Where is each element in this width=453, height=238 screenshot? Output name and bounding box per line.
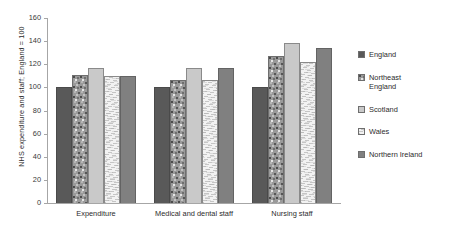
x-axis-line bbox=[47, 203, 341, 204]
bar bbox=[284, 43, 300, 203]
y-axis-tick-label: 40 bbox=[33, 152, 41, 161]
legend-label: Northern Ireland bbox=[369, 150, 422, 160]
bar bbox=[88, 68, 104, 203]
y-axis-tick-label: 20 bbox=[33, 175, 41, 184]
bar bbox=[186, 68, 202, 203]
y-axis-tick-label: 120 bbox=[29, 59, 41, 68]
x-axis-category-label: Medical and dental staff bbox=[155, 209, 233, 218]
x-axis-category-label: Expenditure bbox=[76, 209, 115, 218]
y-axis-tick-label: 0 bbox=[37, 198, 41, 207]
y-axis-tick-label: 140 bbox=[29, 36, 41, 45]
legend-item[interactable]: Northern Ireland bbox=[358, 150, 453, 160]
bar-group-bars bbox=[243, 18, 341, 203]
bar bbox=[202, 80, 218, 203]
bar bbox=[300, 62, 316, 203]
legend-label: Scotland bbox=[369, 105, 398, 115]
legend-label: Northeast England bbox=[369, 73, 401, 92]
y-axis-tick-label: 100 bbox=[29, 82, 41, 91]
legend-item[interactable]: Scotland bbox=[358, 105, 453, 115]
y-axis-title: NHS expenditure and staff; England = 100 bbox=[17, 7, 26, 187]
bar-group-bars bbox=[47, 18, 145, 203]
y-axis-tick-label: 60 bbox=[33, 129, 41, 138]
legend-swatch bbox=[358, 51, 365, 58]
bar bbox=[56, 87, 72, 203]
legend-swatch bbox=[358, 128, 365, 135]
legend-swatch bbox=[358, 74, 365, 81]
bar-group: Nursing staff bbox=[243, 18, 341, 203]
bar bbox=[218, 68, 234, 203]
legend-swatch bbox=[358, 106, 365, 113]
bar-chart-figure: NHS expenditure and staff; England = 100… bbox=[0, 0, 453, 238]
bar bbox=[104, 76, 120, 203]
bar bbox=[170, 80, 186, 203]
legend-item[interactable]: Northeast England bbox=[358, 73, 453, 92]
bar-group: Expenditure bbox=[47, 18, 145, 203]
y-axis-tick-label: 160 bbox=[29, 13, 41, 22]
bar-group: Medical and dental staff bbox=[145, 18, 243, 203]
chart-legend: EnglandNortheast EnglandScotlandWalesNor… bbox=[358, 50, 453, 172]
legend-label: Wales bbox=[369, 127, 389, 137]
bar bbox=[120, 76, 136, 203]
bar bbox=[268, 56, 284, 203]
y-axis-tick-mark bbox=[44, 203, 47, 204]
bar bbox=[72, 75, 88, 203]
legend-label: England bbox=[369, 50, 396, 60]
plot-area: 020406080100120140160 ExpenditureMedical… bbox=[47, 18, 341, 204]
legend-swatch bbox=[358, 151, 365, 158]
bar bbox=[316, 48, 332, 203]
x-axis-category-label: Nursing staff bbox=[271, 209, 312, 218]
bar-group-bars bbox=[145, 18, 243, 203]
y-axis-tick-label: 80 bbox=[33, 106, 41, 115]
bar bbox=[154, 87, 170, 203]
bar bbox=[252, 87, 268, 203]
legend-item[interactable]: England bbox=[358, 50, 453, 60]
legend-item[interactable]: Wales bbox=[358, 127, 453, 137]
